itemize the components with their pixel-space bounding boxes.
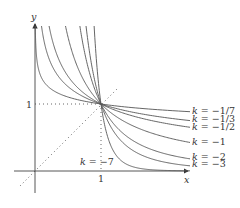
curve-k-k-7 [94,26,190,171]
x-tick-label: 1 [98,173,104,184]
curve-k-k-1 [66,26,191,142]
curve-k-k-1-7 [35,26,190,112]
inner-curve-label: k = −7 [80,156,114,167]
curve-label: k = −1/2 [192,121,235,132]
y-tick-label: 1 [26,99,32,110]
curves-group [35,26,190,171]
power-function-diagram: y x 1 1 k = −7 k = −1/7k = −1/3k = −1/2k… [0,0,240,208]
right-labels-group: k = −1/7k = −1/3k = −1/2k = −1k = −2k = … [192,105,235,169]
curve-k-k-3 [86,26,190,166]
y-axis-label: y [30,11,37,22]
plot-canvas: y x 1 1 k = −7 k = −1/7k = −1/3k = −1/2k… [0,0,240,208]
curve-k-k-1-3 [42,26,190,121]
curve-label: k = −1 [192,136,226,147]
curve-k-k-1-2 [49,26,190,127]
curve-label: k = −3 [192,158,226,169]
x-axis-label: x [184,174,190,185]
